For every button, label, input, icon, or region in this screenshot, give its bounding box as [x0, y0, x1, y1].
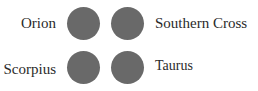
label-orion: Orion [0, 14, 56, 32]
label-scorpius: Scorpius [0, 60, 56, 78]
label-taurus: Taurus [155, 57, 193, 75]
label-southern-cross: Southern Cross [155, 14, 247, 32]
dot-orion[interactable] [67, 7, 100, 40]
dot-southern-cross[interactable] [111, 7, 144, 40]
dot-taurus[interactable] [111, 51, 144, 84]
dot-scorpius[interactable] [67, 51, 100, 84]
